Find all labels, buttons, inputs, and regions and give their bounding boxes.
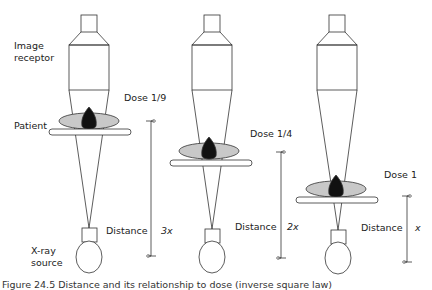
dose-label-2: Dose 1/4 xyxy=(250,128,292,140)
patient-1 xyxy=(49,107,131,135)
setup-2 xyxy=(170,15,286,273)
xray-source-2 xyxy=(199,229,225,273)
image-receptor-3 xyxy=(317,15,357,90)
xray-source-label-line2: source xyxy=(31,257,63,269)
image-receptor-label: Image receptor xyxy=(14,40,54,64)
distance-label-2: Distance xyxy=(235,221,277,233)
beam-cone-3 xyxy=(317,90,357,230)
figure-caption: Figure 24.5 Distance and its relationshi… xyxy=(2,279,332,290)
distance-label-3: Distance xyxy=(361,222,403,234)
xray-source-3 xyxy=(325,230,351,274)
patient-2 xyxy=(170,137,252,166)
xray-source-1 xyxy=(76,228,102,273)
beam-cone-2 xyxy=(192,90,232,229)
distance-value-2: 2x xyxy=(287,221,299,233)
image-receptor-label-line1: Image xyxy=(14,40,54,52)
dose-label-3: Dose 1 xyxy=(384,169,417,181)
image-receptor-label-line2: receptor xyxy=(14,52,54,64)
patient-label: Patient xyxy=(14,120,47,132)
setup-3 xyxy=(296,15,412,274)
distance-arrow-2x xyxy=(276,152,286,258)
image-receptor-1 xyxy=(69,15,109,90)
distance-value-3: x xyxy=(415,222,421,234)
dose-label-1: Dose 1/9 xyxy=(124,92,166,104)
distance-value-1: 3x xyxy=(161,225,173,237)
patient-3 xyxy=(296,175,378,203)
distance-label-1: Distance xyxy=(106,225,148,237)
xray-source-label-line1: X-ray xyxy=(31,245,63,257)
distance-arrow-x xyxy=(402,196,412,262)
xray-source-label: X-ray source xyxy=(31,245,63,269)
image-receptor-2 xyxy=(192,15,232,90)
